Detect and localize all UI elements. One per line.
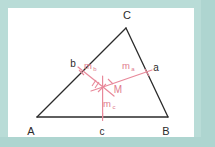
midpoint-label-b: b [70, 58, 76, 69]
midpoint-label-a: a [153, 62, 159, 73]
geometry-figure: A B C a b c m a m b m c M [0, 0, 215, 147]
bisector-m-b-extension [103, 87, 114, 96]
bisector-label-m-a: m a [122, 60, 135, 73]
bisector-label-m-a-sub: a [131, 66, 135, 72]
circumcenter-label: M [114, 84, 122, 95]
vertex-label-a: A [27, 125, 35, 137]
vertex-label-b: B [162, 125, 169, 137]
bisector-label-m-a-base: m [122, 60, 130, 71]
bisector-label-m-c: m c [103, 98, 115, 111]
tick-mark-4 [108, 79, 113, 84]
diagram-canvas: A B C a b c m a m b m c M [0, 0, 215, 147]
vertex-label-c: C [123, 9, 131, 21]
bisector-label-m-b-sub: b [93, 66, 97, 72]
bisector-label-m-c-base: m [103, 98, 111, 109]
midpoint-label-c: c [100, 126, 105, 137]
tick-mark-1 [92, 80, 96, 86]
bisector-label-m-c-sub: c [113, 104, 116, 110]
bisector-label-m-b-base: m [84, 60, 92, 71]
bisector-m-a [103, 70, 152, 87]
bisector-label-m-b: m b [84, 60, 97, 73]
